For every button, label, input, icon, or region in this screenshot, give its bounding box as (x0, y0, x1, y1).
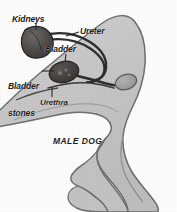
label-bladder-stones: Bladder stones (8, 64, 39, 136)
bladder-stone (58, 71, 62, 75)
label-urethra: Urethra (40, 99, 68, 107)
dog-urinary-anatomy-figure: Kidneys Ureter Bladder Bladder stones Ur… (0, 0, 177, 212)
label-kidneys: Kidneys (12, 15, 44, 24)
figure-caption: MALE DOG (53, 137, 102, 146)
bladder-stone (64, 68, 67, 71)
label-ureter: Ureter (80, 27, 104, 36)
label-bladder-stones-line1: Bladder (8, 82, 39, 91)
label-bladder-stones-line2: stones (8, 109, 39, 118)
bladder-stone (68, 74, 71, 77)
label-bladder: Bladder (45, 45, 76, 54)
